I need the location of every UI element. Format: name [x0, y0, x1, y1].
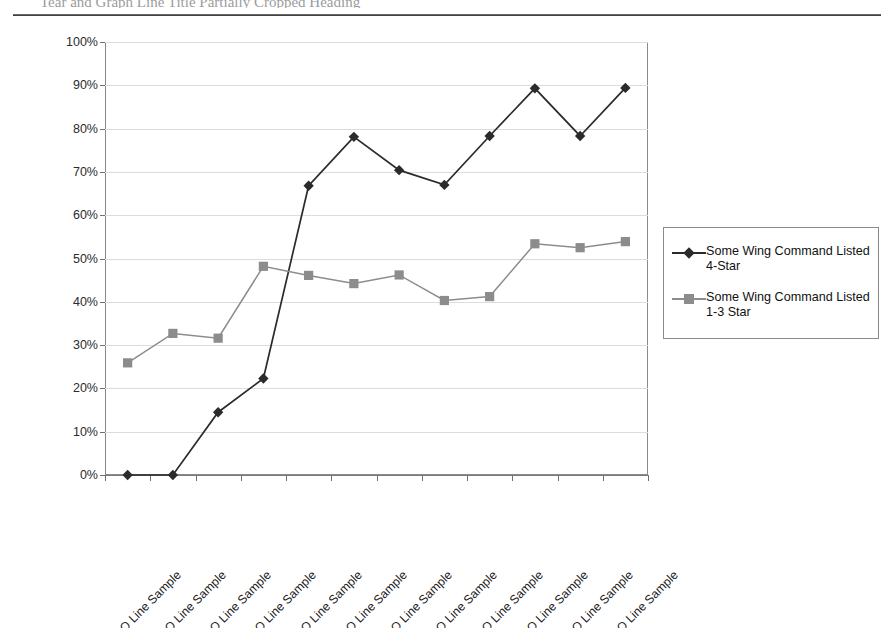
- x-axis-tick: [196, 475, 197, 481]
- y-axis-label: 0%: [80, 468, 98, 482]
- data-point-marker: [214, 334, 223, 343]
- plot-area: 0%10%20%30%40%50%60%70%80%90%100% 1951 G…: [105, 42, 648, 475]
- x-axis-tick: [558, 475, 559, 481]
- data-point-marker: [621, 237, 630, 246]
- x-axis-label: 1968 GO Line Sample: [356, 484, 451, 579]
- chart-legend: Some Wing Command Listed 4-Star Some Win…: [663, 227, 879, 339]
- data-point-marker: [259, 262, 268, 271]
- data-point-marker: [485, 292, 494, 301]
- y-axis-label: 50%: [73, 252, 98, 266]
- x-axis-label: 1951 GO Line Sample: [175, 484, 270, 579]
- data-point-marker: [530, 239, 539, 248]
- y-axis-label: 60%: [73, 208, 98, 222]
- y-axis-label: 70%: [73, 165, 98, 179]
- y-axis-label: 20%: [73, 381, 98, 395]
- cropped-header-text: Tear and Graph Line Title Partially Crop…: [40, 0, 820, 8]
- header-rule: [13, 14, 881, 16]
- x-axis-label: 1988 GO Line Sample: [537, 484, 632, 579]
- page-root: Tear and Graph Line Title Partially Crop…: [0, 0, 895, 628]
- x-axis-label: 1963 GO Line Sample: [311, 484, 406, 579]
- y-axis-label: 80%: [73, 122, 98, 136]
- x-axis-label: 2002 GO Line Sample: [673, 484, 768, 579]
- x-axis-tick: [105, 475, 106, 481]
- y-axis-label: 40%: [73, 295, 98, 309]
- legend-entry-1-3-star: Some Wing Command Listed 1-3 Star: [672, 290, 872, 320]
- data-point-marker: [122, 470, 132, 480]
- x-axis-tick: [512, 475, 513, 481]
- x-axis-tick: [603, 475, 604, 481]
- data-point-marker: [304, 271, 313, 280]
- chart-figure: 0%10%20%30%40%50%60%70%80%90%100% 1951 G…: [0, 20, 895, 620]
- series-layer: [105, 42, 648, 475]
- data-point-marker: [168, 329, 177, 338]
- x-axis-tick: [422, 475, 423, 481]
- series-line: [128, 242, 626, 363]
- y-axis-label: 10%: [73, 425, 98, 439]
- diamond-marker-icon: [672, 246, 706, 260]
- y-axis-label: 30%: [73, 338, 98, 352]
- y-axis-label: 100%: [66, 35, 98, 49]
- data-point-marker: [440, 296, 449, 305]
- y-axis-label: 90%: [73, 78, 98, 92]
- legend-label-1-3-star: Some Wing Command Listed 1-3 Star: [706, 290, 870, 320]
- x-axis-tick: [331, 475, 332, 481]
- x-axis-tick: [467, 475, 468, 481]
- data-point-marker: [395, 270, 404, 279]
- data-point-marker: [349, 279, 358, 288]
- data-point-marker: [576, 243, 585, 252]
- square-marker-icon: [672, 292, 706, 306]
- x-axis-tick: [150, 475, 151, 481]
- x-axis-tick: [648, 475, 649, 481]
- legend-label-4-star: Some Wing Command Listed 4-Star: [706, 244, 870, 274]
- x-axis-tick: [377, 475, 378, 481]
- legend-entry-4-star: Some Wing Command Listed 4-Star: [672, 244, 872, 274]
- x-axis-tick: [241, 475, 242, 481]
- data-point-marker: [123, 358, 132, 367]
- x-axis-label: 1983 GO Line Sample: [492, 484, 587, 579]
- series-line: [128, 88, 626, 475]
- x-axis-tick: [286, 475, 287, 481]
